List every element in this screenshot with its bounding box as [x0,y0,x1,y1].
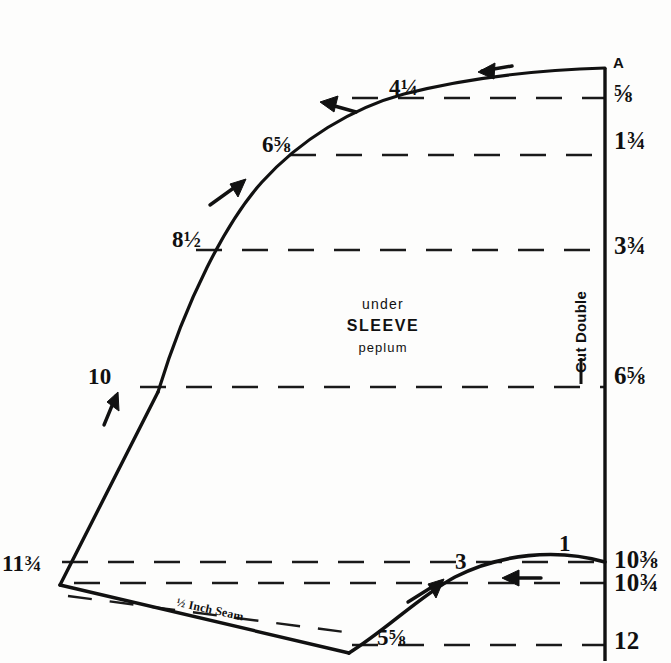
fold-scale-1-3-4: 1¾ [614,128,646,153]
edge-measurement-left-curve-8-1-2: 8½ [172,228,201,251]
arrow-left-edge-up-icon [104,392,119,425]
piece-name-peplum: peplum [318,340,448,355]
piece-name-sleeve: SLEEVE [318,317,448,335]
edge-measurement-left-edge-10: 10 [88,365,112,388]
fold-scale-3-3-4: 3¾ [614,233,646,258]
fold-scale-12: 12 [614,628,640,653]
point-a-label: A [613,55,624,70]
edge-measurement-bottom-curve-1: 1 [559,532,571,555]
left-side-edge [60,392,158,585]
lower-edge [60,585,349,653]
edge-measurement-top-curve-6-5-8: 6⅝ [262,133,291,156]
edge-measurement-left-corner-11-3-4: 11¾ [2,552,42,575]
pattern-sheet: A Cut Double ½ Inch Seam under SLEEVE pe… [0,0,671,663]
fold-scale-5-8: ⅝ [614,81,633,106]
edge-measurement-top-curve-4-1-4: 4¼ [389,76,418,99]
arrow-cap-upper-left-icon [320,96,356,112]
piece-name-under: under [318,296,448,312]
piece-name-block: under SLEEVE peplum [318,296,448,355]
edge-measurement-bottom-curve-5-5-8: 5⅝ [377,626,406,649]
dashed-guide-lines [62,98,604,645]
edge-measurement-bottom-curve-3: 3 [455,550,467,573]
arrow-cap-up-right-icon [210,179,246,205]
fold-scale-6-5-8: 6⅝ [614,363,646,388]
fold-scale-10-3-4: 10¾ [614,570,659,595]
cut-double-grainline-label: Cut Double [573,291,588,373]
